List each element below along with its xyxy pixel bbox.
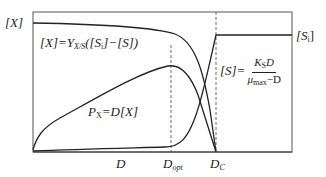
x-tick-dc: DC bbox=[210, 157, 225, 172]
biomass-equation: [X]=YX/S([Si]−[S]) bbox=[40, 36, 138, 51]
substrate-equation: [S]=KSDμmax−D bbox=[220, 56, 283, 89]
y-axis-label-si: [Si] bbox=[296, 29, 314, 44]
x-tick-dopt: Dopt bbox=[163, 157, 183, 172]
productivity-equation: PX=D[X] bbox=[88, 105, 138, 120]
x-tick-d: D bbox=[116, 157, 125, 170]
y-axis-label-x: [X] bbox=[5, 16, 23, 29]
substrate-curve bbox=[33, 35, 292, 151]
